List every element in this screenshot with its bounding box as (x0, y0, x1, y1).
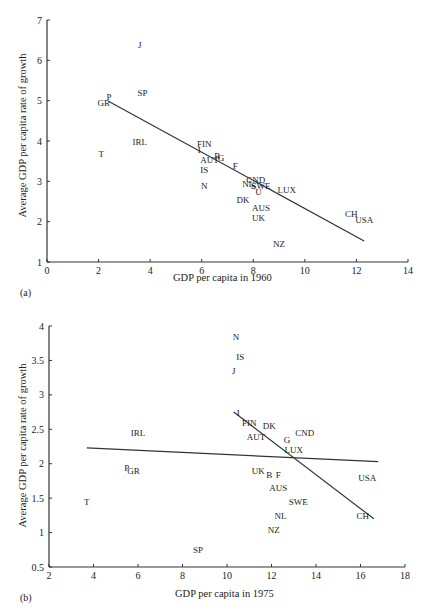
point-label: N (201, 181, 208, 191)
point-label: F (276, 470, 281, 480)
point-label: DK (263, 421, 276, 431)
y-tick-label: 2 (39, 458, 44, 469)
point-label: NZ (268, 525, 280, 535)
point-label: SWE (289, 497, 309, 507)
chart-b: 246810121416180.511.522.533.54NISJIRLIFI… (0, 305, 430, 610)
y-tick-label: 1 (37, 257, 42, 268)
x-tick-label: 2 (96, 265, 101, 276)
point-label: DK (236, 195, 249, 205)
x-tick-label: 10 (300, 265, 310, 276)
point-label: IS (200, 165, 208, 175)
y-tick-label: 5 (37, 95, 42, 106)
point-label: J (138, 40, 142, 50)
x-tick-label: 12 (267, 570, 277, 581)
point-label: AUS (269, 483, 287, 493)
x-tick-label: 8 (180, 570, 185, 581)
x-tick-label: 10 (222, 570, 232, 581)
x-tick-label: 16 (356, 570, 366, 581)
point-label: G (284, 435, 291, 445)
y-tick-label: 3 (37, 176, 42, 187)
point-label: NZ (273, 239, 285, 249)
point-label: I (198, 145, 201, 155)
point-label: UK (252, 466, 265, 476)
x-tick-label: 2 (47, 570, 52, 581)
x-tick-label: 4 (148, 265, 153, 276)
x-axis-label-b: GDP per capita in 1975 (175, 588, 274, 599)
x-tick-label: 4 (91, 570, 96, 581)
point-label: FIN (242, 418, 257, 428)
axes: 246810121416180.511.522.533.54 (32, 321, 411, 582)
point-label: IRL (131, 428, 146, 438)
point-label: B (266, 470, 272, 480)
point-label: G (218, 153, 225, 163)
y-tick-label: 3.5 (32, 355, 45, 366)
y-tick-label: 2 (37, 216, 42, 227)
y-tick-label: 1.5 (32, 493, 45, 504)
point-label: AUT (247, 432, 266, 442)
x-tick-label: 6 (136, 570, 141, 581)
scatter-plot-a: 024681012141234567JSPPGRIRLTFINIAUTBGISF… (0, 0, 430, 305)
scatter-plot-b: 246810121416180.511.522.533.54NISJIRLIFI… (0, 305, 430, 610)
y-tick-label: 2.5 (32, 424, 45, 435)
x-axis-label-a: GDP per capita in 1960 (173, 272, 272, 283)
point-label: T (98, 149, 104, 159)
x-tick-label: 14 (311, 570, 321, 581)
point-label: IS (236, 352, 244, 362)
point-label: SP (137, 88, 147, 98)
x-tick-label: 0 (45, 265, 50, 276)
point-label: AUS (252, 203, 270, 213)
point-label: U (255, 187, 262, 197)
regression-line (109, 101, 364, 241)
data-points: JSPPGRIRLTFINIAUTBGISFNNLCNDSSWEULUXDKAU… (97, 40, 373, 250)
point-label: J (232, 366, 236, 376)
y-tick-label: 4 (39, 321, 44, 332)
point-label: UK (252, 213, 265, 223)
y-tick-label: 1 (39, 527, 44, 538)
point-label: SP (193, 545, 203, 555)
point-label: CND (295, 428, 315, 438)
y-axis-label-b: Average GDP per capita rate of growth (17, 346, 28, 546)
y-tick-label: 6 (37, 55, 42, 66)
point-label: T (84, 497, 90, 507)
y-tick-label: 3 (39, 389, 44, 400)
x-tick-label: 12 (351, 265, 361, 276)
point-label: LUX (278, 185, 297, 195)
point-label: USA (358, 473, 377, 483)
point-label: NL (274, 511, 286, 521)
point-label: GR (127, 466, 140, 476)
y-tick-label: 4 (37, 136, 42, 147)
point-label: USA (355, 215, 374, 225)
y-tick-label: 7 (37, 15, 42, 26)
y-axis-label-a: Average GDP per capita rate of growth (17, 36, 28, 236)
point-label: N (233, 332, 240, 342)
panel-label-b: (b) (20, 592, 32, 603)
point-label: LUX (285, 445, 304, 455)
point-label: GR (97, 98, 110, 108)
point-label: F (233, 161, 238, 171)
chart-a: 024681012141234567JSPPGRIRLTFINIAUTBGISF… (0, 0, 430, 305)
point-label: IRL (133, 137, 148, 147)
panel-label-a: (a) (20, 287, 31, 298)
y-tick-label: 0.5 (32, 562, 45, 573)
x-tick-label: 14 (403, 265, 413, 276)
regression-line (87, 448, 378, 462)
x-tick-label: 18 (400, 570, 410, 581)
point-label: I (237, 408, 240, 418)
point-label: CH (356, 511, 369, 521)
data-points: NISJIRLIFINDKAUTGCNDLUXPGRUKBFAUSUSATSWE… (84, 332, 377, 555)
